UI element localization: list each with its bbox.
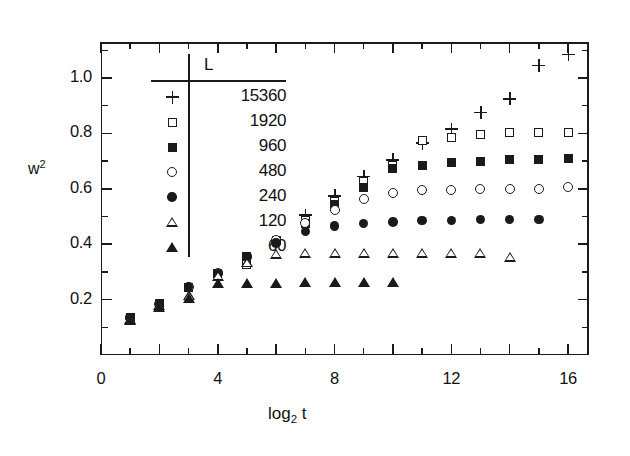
y-tick-left (101, 271, 108, 273)
y-tick-right (582, 327, 589, 329)
x-tick-bottom (159, 344, 161, 355)
x-tick-top (100, 42, 102, 53)
x-tick-label: 16 (548, 369, 588, 388)
y-tick-label: 0.4 (44, 233, 92, 252)
x-tick-top (480, 42, 482, 49)
legend-item-960[interactable]: 960 (146, 135, 294, 160)
x-tick-bottom (246, 348, 248, 355)
x-tick-bottom (538, 348, 540, 355)
legend-item-120[interactable]: 120 (146, 210, 294, 235)
x-tick-top (188, 42, 190, 49)
x-tick-top (363, 42, 365, 49)
x-tick-top (451, 42, 453, 53)
y-tick-right (582, 271, 589, 273)
legend-symbol (164, 189, 180, 205)
y-tick-left (101, 299, 112, 301)
legend-label: 120 (196, 211, 286, 231)
x-tick-bottom (129, 348, 131, 355)
marker-filled-triangle (166, 242, 178, 252)
plot-frame-top-spine (101, 42, 589, 44)
x-tick-bottom (363, 348, 365, 355)
y-tick-right (578, 299, 589, 301)
y-tick-left (101, 133, 112, 135)
y-tick-right (582, 105, 589, 107)
x-tick-bottom (188, 348, 190, 355)
marker-plus (166, 91, 179, 104)
y-axis-title: w2 (28, 158, 46, 178)
legend-item-15360[interactable]: 15360 (146, 85, 294, 110)
y-tick-right (582, 160, 589, 162)
x-tick-label: 4 (198, 369, 238, 388)
y-tick-right (578, 133, 589, 135)
legend-label: 480 (196, 161, 286, 181)
x-axis-title-text: log (268, 404, 291, 423)
marker-open-square (168, 118, 177, 127)
y-tick-left (101, 50, 108, 52)
x-tick-top (538, 42, 540, 49)
x-tick-bottom (451, 344, 453, 355)
legend-symbol (164, 89, 180, 105)
x-tick-top (392, 42, 394, 53)
x-tick-top (421, 42, 423, 49)
x-tick-label: 12 (431, 369, 471, 388)
legend-symbol (164, 239, 180, 255)
y-tick-left (101, 160, 108, 162)
legend-symbol (164, 164, 180, 180)
marker-filled-square (168, 143, 177, 152)
y-axis-title-text: w (28, 160, 40, 177)
legend-item-60[interactable]: 60 (146, 235, 294, 260)
legend-symbol (164, 139, 180, 155)
y-tick-right (578, 243, 589, 245)
scatter-plot-figure: 0.20.40.60.81.00481216 w2 log2 t L 15360… (0, 0, 630, 456)
marker-open-circle (167, 167, 177, 177)
x-tick-bottom (275, 344, 277, 355)
x-tick-bottom (334, 344, 336, 355)
legend-label: 60 (196, 236, 286, 256)
y-tick-left (101, 243, 112, 245)
legend-item-1920[interactable]: 1920 (146, 110, 294, 135)
legend-label: 1920 (196, 111, 286, 131)
y-tick-label: 0.8 (44, 122, 92, 141)
y-tick-left (101, 105, 108, 107)
x-tick-bottom (392, 344, 394, 355)
legend-label: 15360 (196, 86, 286, 106)
x-tick-label: 0 (81, 369, 121, 388)
legend-symbol (164, 214, 180, 230)
legend-item-480[interactable]: 480 (146, 160, 294, 185)
y-tick-left (101, 327, 108, 329)
x-tick-bottom (480, 348, 482, 355)
x-axis-title-subscript: 2 (291, 413, 297, 425)
legend-item-240[interactable]: 240 (146, 185, 294, 210)
marker-open-triangle (166, 217, 178, 227)
x-axis-title-variable: t (302, 404, 307, 423)
x-tick-label: 8 (315, 369, 355, 388)
x-tick-top (567, 42, 569, 53)
y-tick-label: 1.0 (44, 67, 92, 86)
y-tick-left (101, 188, 112, 190)
y-tick-right (582, 50, 589, 52)
x-tick-bottom (567, 344, 569, 355)
y-tick-left (101, 216, 108, 218)
x-tick-top (246, 42, 248, 49)
y-tick-label: 0.6 (44, 178, 92, 197)
x-tick-bottom (509, 344, 511, 355)
legend-symbol (164, 114, 180, 130)
x-tick-top (509, 42, 511, 53)
y-tick-left (101, 77, 112, 79)
y-tick-right (578, 77, 589, 79)
legend-label: 240 (196, 186, 286, 206)
legend-horizontal-rule (151, 80, 286, 82)
x-tick-top (129, 42, 131, 49)
x-tick-top (334, 42, 336, 53)
x-tick-bottom (421, 348, 423, 355)
y-axis-title-exponent: 2 (40, 158, 46, 170)
y-tick-label: 0.2 (44, 289, 92, 308)
x-tick-bottom (217, 344, 219, 355)
x-tick-bottom (100, 344, 102, 355)
x-tick-bottom (305, 348, 307, 355)
x-tick-top (305, 42, 307, 49)
x-axis-title: log2 t (268, 404, 307, 425)
y-tick-right (578, 188, 589, 190)
y-tick-right (582, 216, 589, 218)
plot-frame-right-spine (587, 42, 589, 355)
